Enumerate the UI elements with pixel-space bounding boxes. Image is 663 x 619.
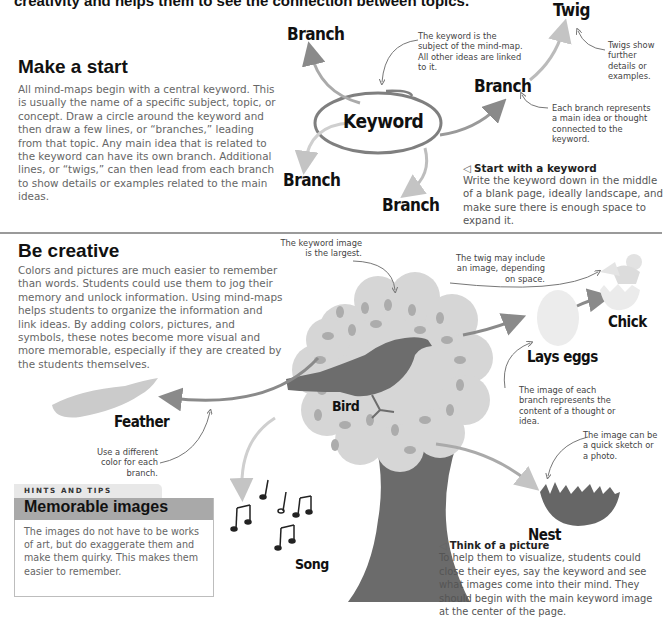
label-bird: Bird: [332, 398, 359, 414]
section-heading-be-creative: Be creative: [18, 240, 119, 262]
branch-arrow-song: [242, 418, 275, 490]
note-twigs: Twigs show further details or examples.: [608, 40, 662, 81]
note-branch: Each branch represents a main idea or th…: [552, 103, 657, 144]
hints-tab-label: HINTS AND TIPS: [24, 486, 112, 495]
branch-arrow-bottom: [410, 148, 427, 191]
note-keyword-image: The keyword image is the largest.: [272, 238, 362, 259]
egg-image: [537, 290, 579, 346]
nest-image: [540, 482, 620, 526]
label-branch-bottom-left: Branch: [283, 170, 340, 190]
label-chick: Chick: [608, 313, 647, 331]
hints-title-bar: Memorable images: [14, 498, 213, 520]
triangle-left-icon: ◁: [463, 162, 471, 174]
feather-image: [52, 378, 158, 418]
triangle-left-icon: ◁: [439, 540, 447, 551]
note-branch-image: The image of each branch represents the …: [519, 385, 624, 426]
label-branch-right: Branch: [474, 76, 531, 96]
label-song: Song: [295, 556, 329, 572]
hints-body: The images do not have to be works of ar…: [24, 525, 210, 578]
music-notes-image: [231, 480, 312, 550]
twig-arrow: [530, 30, 563, 80]
label-branch-top-left: Branch: [287, 24, 344, 44]
note-keyword: The keyword is the subject of the mind-m…: [418, 31, 526, 72]
note-color: Use a different color for each branch.: [74, 447, 158, 478]
section-divider: [0, 232, 662, 234]
note-twig-image: The twig may include an image, depending…: [445, 253, 545, 284]
label-twig: Twig: [553, 0, 590, 20]
hints-tab: HINTS AND TIPS: [14, 484, 162, 498]
note-sketch: The image can be a quick sketch or a pho…: [583, 430, 661, 461]
label-branch-bottom: Branch: [382, 195, 439, 215]
hints-title: Memorable images: [24, 498, 168, 516]
branch-arrow-right: [440, 107, 498, 135]
caption-body: Write the keyword down in the middle of …: [463, 174, 663, 228]
label-feather: Feather: [114, 413, 169, 431]
caption-body: To help them to visualize, students coul…: [439, 551, 661, 619]
section-body-be-creative: Colors and pictures are much easier to r…: [18, 264, 284, 371]
caption-title: Think of a picture: [450, 540, 550, 551]
label-keyword: Keyword: [343, 110, 423, 132]
caption-title: Start with a keyword: [474, 162, 597, 174]
chick-image: [600, 254, 642, 310]
caption-start-with-keyword: ◁Start with a keyword Write the keyword …: [463, 162, 663, 228]
caption-think-of-picture: ◁Think of a picture To help them to visu…: [439, 540, 661, 619]
label-lays-eggs: Lays eggs: [527, 348, 598, 366]
